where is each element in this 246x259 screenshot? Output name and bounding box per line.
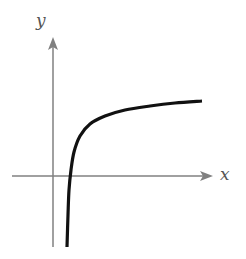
function-curve <box>67 101 202 247</box>
plot-canvas <box>0 0 246 259</box>
y-axis-label: y <box>36 12 46 29</box>
log-function-graph: y x <box>0 0 246 259</box>
x-axis-label: x <box>220 166 230 183</box>
